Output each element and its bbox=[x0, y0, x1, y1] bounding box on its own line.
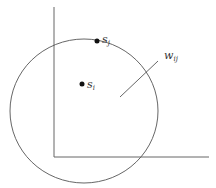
label-w-ij: wij bbox=[164, 49, 179, 63]
label-s-i: si bbox=[87, 78, 95, 92]
point-s-j bbox=[95, 39, 100, 44]
circle-diagram: sj si wij bbox=[0, 0, 216, 188]
circle bbox=[10, 39, 158, 183]
point-s-i bbox=[80, 82, 85, 87]
label-s-j: sj bbox=[102, 33, 111, 47]
radius-line bbox=[120, 61, 158, 97]
